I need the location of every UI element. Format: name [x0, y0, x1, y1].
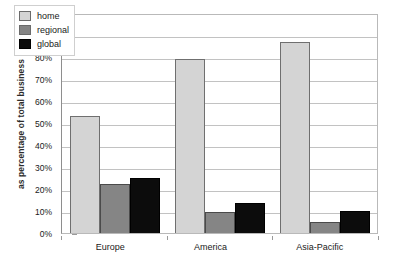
x-tick-mark [167, 236, 168, 240]
y-tick-mark [72, 234, 77, 235]
bar-global-europe [130, 178, 160, 233]
legend-item-regional: regional [19, 23, 69, 37]
plot-area [61, 14, 378, 234]
bar-regional-asia-pacific [310, 222, 340, 233]
legend-label: regional [37, 25, 69, 35]
bar-home-europe [70, 116, 100, 233]
bar-home-america [175, 59, 205, 233]
legend-item-global: global [19, 37, 69, 51]
y-tick-label: 40% [12, 141, 52, 151]
legend-swatch-global-icon [19, 39, 31, 49]
bar-global-america [235, 203, 265, 233]
x-tick-mark [61, 236, 62, 240]
y-tick-label: 20% [12, 185, 52, 195]
x-axis-tick-labels: EuropeAmericaAsia-Pacific [61, 236, 378, 256]
bar-groups [62, 15, 377, 233]
bar-group [175, 15, 265, 233]
legend-label: global [37, 39, 61, 49]
x-tick-label: America [194, 236, 227, 256]
x-tick-label: Asia-Pacific [296, 236, 343, 256]
legend-swatch-regional-icon [19, 25, 31, 35]
legend-label: home [37, 11, 60, 21]
legend-item-home: home [19, 9, 69, 23]
bar-global-asia-pacific [340, 211, 370, 233]
y-tick-label: 50% [12, 119, 52, 129]
y-tick-label: 10% [12, 207, 52, 217]
x-tick-mark [378, 236, 379, 240]
bar-regional-america [205, 212, 235, 233]
bar-group [280, 15, 370, 233]
y-tick-label: 60% [12, 97, 52, 107]
y-tick-label: 70% [12, 75, 52, 85]
bar-regional-europe [100, 184, 130, 234]
chart-legend: homeregionalglobal [14, 5, 75, 56]
legend-swatch-home-icon [19, 11, 31, 21]
bar-home-asia-pacific [280, 42, 310, 233]
x-tick-mark [272, 236, 273, 240]
x-tick-label: Europe [96, 236, 125, 256]
bar-group [70, 15, 160, 233]
y-tick-label: 30% [12, 163, 52, 173]
y-tick-label: 0% [12, 229, 52, 239]
bar-chart-figure: as percentage of total business 0%10%20%… [0, 0, 395, 272]
